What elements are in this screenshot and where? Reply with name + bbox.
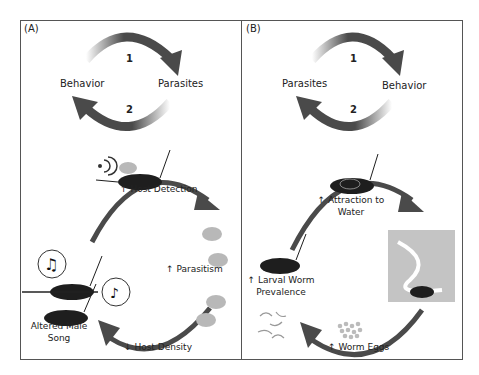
fly-on-cricket-icon [119,162,137,174]
arrow-1-number: 1 [126,53,133,64]
larval-worms-icon [258,312,286,338]
altered-song-label: Altered Male Song [24,320,94,344]
parasites-label: Parasites [158,78,203,89]
arrow-2-number: 2 [350,104,357,115]
infected-cricket-icon [330,154,378,194]
panel-a-label: (A) [24,23,39,34]
cycle-arrow-1-icon [86,37,182,76]
svg-text:♪: ♪ [110,285,119,301]
cycle-arrow-1-icon [312,37,404,76]
svg-text:♫: ♫ [44,255,58,274]
flies-parasitism-icon [196,227,228,327]
speech-bubble-single-note-icon: ♪ [102,278,130,306]
host-detection-label: ↑ Host Detection [120,184,197,194]
worm-eggs-label: ↑ Worm Eggs [328,342,389,352]
parasites-label: Parasites [282,78,327,89]
cycle-arrow-2-icon [72,96,170,127]
arrow-1-number: 1 [350,53,357,64]
speech-bubble-double-note-icon: ♫ [38,250,66,278]
cycle-arrow-2-icon [296,96,392,127]
river-scene-icon [388,230,455,302]
arrow-2-number: 2 [126,104,133,115]
behavior-label: Behavior [382,80,426,91]
parasitism-label: ↑ Parasitism [166,264,223,274]
host-density-label: ↓ Host Density [124,342,192,352]
attraction-to-water-label: ↑ Attraction to Water [306,194,396,218]
worm-eggs-icon [338,322,363,340]
larval-worm-prevalence-label: ↑ Larval Worm Prevalence [246,274,316,298]
panel-a: ♫ ♪ (A) 1 2 Behavior Parasites ↑ Host De… [20,20,241,360]
sound-waves-icon [98,157,117,175]
panel-b: (B) 1 2 Parasites Behavior ↑ Attraction … [242,20,463,360]
behavior-label: Behavior [60,78,104,89]
panel-b-graphics [242,20,463,360]
panel-b-label: (B) [246,23,261,34]
